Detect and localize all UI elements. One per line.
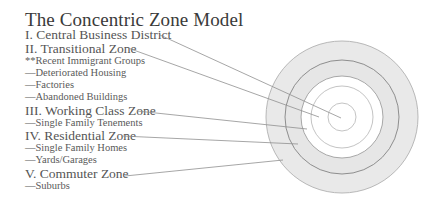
- ring-central-business-district: [328, 103, 356, 131]
- concentric-zone-diagram: [0, 0, 436, 201]
- leader-line-commuter: [125, 160, 283, 176]
